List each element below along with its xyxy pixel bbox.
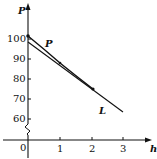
x-axis-label: h [150,143,157,154]
point-start [26,34,30,38]
curve-label-P: P [44,38,53,49]
chart: 100 90 80 70 60 0 1 2 3 P h P L [0,0,157,159]
x-axis-arrow-icon [145,138,152,143]
point-h2 [91,87,94,90]
y-axis-label: P [17,5,26,16]
y-tick-70: 70 [13,93,26,104]
y-tick-60: 60 [13,113,26,124]
line-L [28,42,123,112]
y-tick-80: 80 [13,73,26,84]
point-h1 [59,62,62,65]
axis-break [25,124,30,135]
x-tick-1: 1 [57,143,63,154]
x-tick-3: 3 [120,143,126,154]
x-tick-2: 2 [89,143,95,154]
line-label-L: L [98,105,106,116]
origin-label: 0 [20,142,26,153]
y-tick-100: 100 [7,33,26,44]
y-tick-90: 90 [13,53,26,64]
y-axis-arrow-icon [26,3,31,10]
